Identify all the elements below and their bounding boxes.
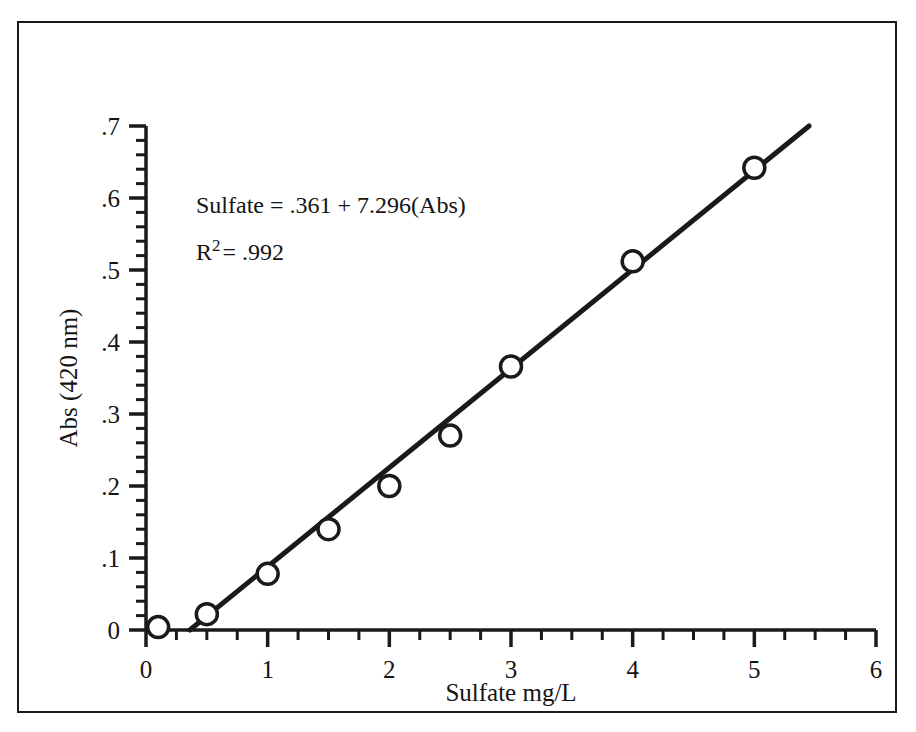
y-axis-title: Abs (420 nm) (55, 309, 83, 448)
data-point-marker (196, 604, 217, 625)
data-point-markers (148, 157, 765, 637)
x-axis-title: Sulfate mg/L (445, 679, 576, 706)
x-axis-tick-label: 0 (140, 656, 153, 683)
y-axis-tick-label: 0 (108, 617, 121, 644)
y-axis-tick-label: .2 (101, 473, 120, 500)
x-axis-tick-label: 1 (261, 656, 274, 683)
y-axis-tick-label: .5 (101, 257, 120, 284)
x-axis-tick-label: 5 (748, 656, 761, 683)
y-axis-ticks (129, 126, 146, 630)
figure-container: 0.1.2.3.4.5.6.7 0123456 Sulfate mg/L Abs… (0, 0, 916, 732)
data-point-marker (744, 157, 765, 178)
annotation-r-exponent: 2 (212, 236, 221, 255)
y-axis-tick-labels: 0.1.2.3.4.5.6.7 (101, 113, 120, 644)
data-point-marker (148, 617, 169, 638)
data-point-marker (257, 563, 278, 584)
y-axis-tick-label: .6 (101, 185, 120, 212)
annotation-r-label: R (196, 239, 212, 265)
data-point-marker (379, 476, 400, 497)
y-axis-tick-label: .1 (101, 545, 120, 572)
y-axis-tick-label: .4 (101, 329, 120, 356)
chart-plot: 0.1.2.3.4.5.6.7 0123456 Sulfate mg/L Abs… (0, 0, 916, 732)
annotation-r-value: = .992 (223, 239, 285, 265)
data-point-marker (440, 425, 461, 446)
annotation-equation: Sulfate = .361 + 7.296(Abs) (196, 192, 466, 218)
y-axis-tick-label: .3 (101, 401, 120, 428)
data-point-marker (501, 356, 522, 377)
x-axis-tick-label: 2 (383, 656, 396, 683)
data-point-marker (318, 519, 339, 540)
x-axis-tick-label: 6 (870, 656, 883, 683)
data-point-marker (622, 251, 643, 272)
x-axis-ticks (146, 630, 876, 647)
y-axis-tick-label: .7 (101, 113, 120, 140)
annotation-r-squared: R2= .992 (196, 236, 284, 265)
x-axis-tick-label: 4 (626, 656, 639, 683)
